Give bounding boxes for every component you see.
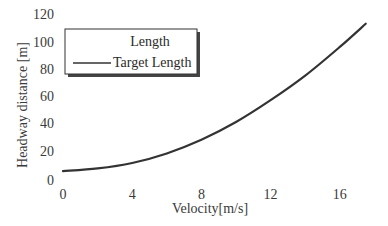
legend: Length Target Length <box>65 29 200 77</box>
y-tick-label: 80 <box>40 62 54 77</box>
x-tick-label: 4 <box>129 187 136 202</box>
y-tick-label: 0 <box>47 173 54 188</box>
x-axis-label: Velocity[m/s] <box>172 201 248 216</box>
y-tick-label: 100 <box>33 35 54 50</box>
y-axis-ticks: 020406080100120 <box>33 7 54 188</box>
y-tick-label: 120 <box>33 7 54 22</box>
y-tick-label: 40 <box>40 116 54 131</box>
x-tick-label: 8 <box>198 187 205 202</box>
y-tick-label: 20 <box>40 144 54 159</box>
y-axis-label: Headway distance [m] <box>15 42 30 168</box>
legend-title: Length <box>130 34 170 49</box>
x-tick-label: 0 <box>60 187 67 202</box>
chart-canvas: 020406080100120 0481216 Length Target Le… <box>0 0 388 226</box>
x-tick-label: 12 <box>264 187 278 202</box>
legend-entry-target-length: Target Length <box>113 55 191 70</box>
x-axis-ticks: 0481216 <box>60 187 347 202</box>
y-tick-label: 60 <box>40 89 54 104</box>
x-tick-label: 16 <box>333 187 347 202</box>
